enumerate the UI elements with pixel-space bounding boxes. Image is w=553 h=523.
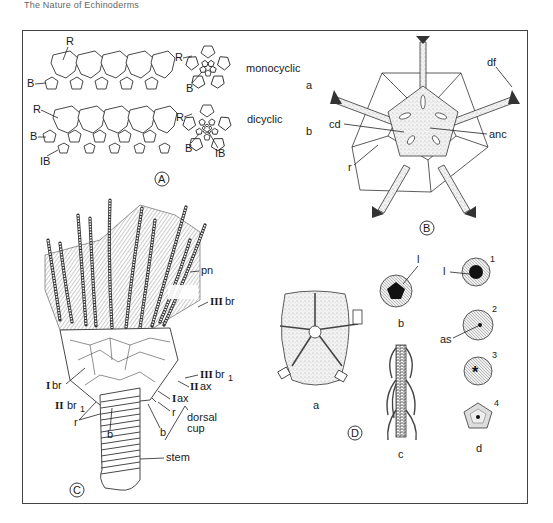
label-stage-3: 3 [492, 350, 497, 360]
label-pn: pn [201, 264, 213, 276]
label-cd: cd [329, 118, 341, 130]
figure-canvas: R B R B monocyclic [0, 0, 553, 523]
crinoid-arms [45, 200, 205, 330]
label-ib-di: IB [40, 155, 50, 167]
label-d-c: c [398, 448, 404, 460]
label-b-di: B [30, 130, 37, 142]
panel-label-d: D [351, 427, 359, 439]
label-i-roman-br: I [46, 379, 50, 391]
label-as: as [440, 333, 452, 345]
columnal-stage-1 [462, 258, 490, 286]
label-anc: anc [489, 128, 507, 140]
label-r-b: r [348, 161, 352, 173]
label-b-side-a: a [306, 79, 313, 91]
label-r-mono-ring: R [175, 51, 183, 63]
panel-label-a: A [158, 173, 166, 185]
label-cup: cup [187, 422, 205, 434]
label-iii-roman-1: III [200, 368, 213, 380]
label-ib-di-ring: IB [215, 147, 225, 159]
label-iibr1: br [67, 399, 77, 411]
stem-with-cirri [387, 345, 416, 440]
svg-text:*: * [472, 364, 479, 381]
label-iiibr1: br [215, 368, 225, 380]
columnal-stage-2 [463, 310, 493, 340]
stem [100, 388, 140, 490]
panel-c: pn III br III br 1 II ax I ax I br II br… [45, 200, 235, 497]
label-iiax: ax [200, 380, 212, 392]
label-l-d1: l [443, 265, 445, 277]
cup-oral-view [278, 291, 362, 385]
label-ii-roman-br: II [55, 399, 64, 411]
label-b-side-b: b [306, 125, 312, 137]
label-b-mono-ring: B [186, 82, 193, 94]
label-i-roman-ax: I [172, 392, 176, 404]
label-stage-4: 4 [494, 398, 499, 408]
label-d-b: b [398, 317, 404, 329]
panel-d: a D l b c [278, 253, 499, 460]
label-dicyclic: dicyclic [247, 113, 283, 125]
dicyclic-radials [43, 106, 177, 153]
label-iiibr: br [225, 295, 235, 307]
panel-label-b: B [423, 222, 430, 234]
label-l-b: l [417, 253, 419, 265]
label-b-di-ring: B [185, 142, 192, 154]
label-ii-roman-ax: II [190, 380, 199, 392]
label-stem: stem [166, 451, 190, 463]
label-ibr: br [52, 379, 62, 391]
columnal-stage-3: * [464, 357, 492, 385]
label-r-right: r [172, 406, 176, 418]
label-iax: ax [177, 392, 189, 404]
panel-a: R B R B monocyclic [27, 35, 301, 186]
panel-b: a b [306, 36, 520, 235]
label-monocyclic: monocyclic [246, 62, 301, 74]
label-r-di-ring: R [176, 111, 184, 123]
columnal-b [380, 275, 412, 307]
label-iii-roman: III [210, 295, 223, 307]
label-b-mono: B [27, 77, 34, 89]
label-d-d: d [476, 442, 482, 454]
label-r-mono: R [66, 35, 74, 47]
label-stage-2: 2 [492, 304, 497, 314]
label-stage-1: 1 [490, 254, 495, 264]
panel-label-c: C [73, 484, 81, 496]
label-r-di: R [33, 103, 41, 115]
label-r-left: r [74, 416, 78, 428]
label-iiibr1-sub: 1 [228, 373, 233, 383]
label-df: df [487, 56, 497, 68]
label-b-right: b [160, 426, 166, 438]
columnal-stage-4 [464, 403, 492, 428]
label-d-a: a [313, 399, 320, 411]
label-iibr1-sub: 1 [80, 404, 85, 414]
